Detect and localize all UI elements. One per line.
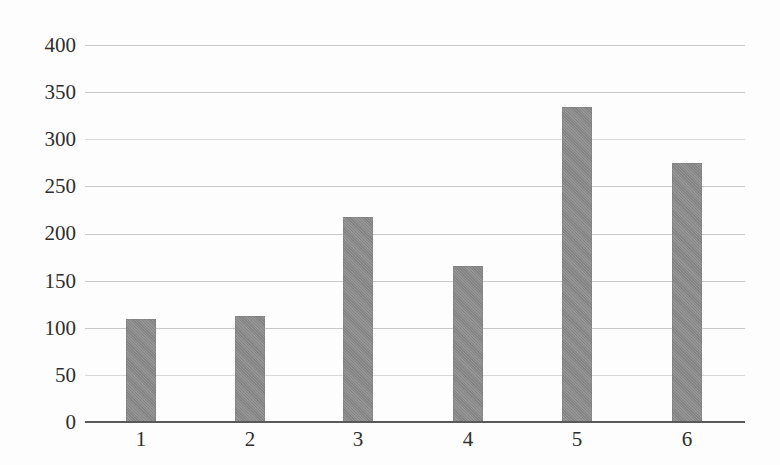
bar-2: [235, 316, 265, 422]
bar-3: [343, 217, 373, 422]
x-tick-label-1: 1: [111, 429, 171, 450]
y-tick-label-400: 400: [16, 35, 76, 56]
gridline-50: [85, 375, 745, 376]
y-tick-label-0: 0: [16, 412, 76, 433]
x-axis-line: [85, 421, 745, 423]
gridline-250: [85, 186, 745, 187]
y-tick-label-250: 250: [16, 176, 76, 197]
y-tick-label-100: 100: [16, 318, 76, 339]
y-axis-tick-labels: 400 350 300 250 200 150 100 50 0: [10, 0, 76, 465]
y-tick-label-150: 150: [16, 271, 76, 292]
gridline-150: [85, 281, 745, 282]
gridline-350: [85, 92, 745, 93]
x-tick-label-4: 4: [438, 429, 498, 450]
bar-6: [672, 163, 702, 422]
y-tick-label-50: 50: [16, 365, 76, 386]
gridline-200: [85, 234, 745, 235]
x-tick-label-6: 6: [657, 429, 717, 450]
bar-5: [562, 107, 592, 422]
bar-1: [126, 319, 156, 422]
x-tick-label-2: 2: [220, 429, 280, 450]
gridline-100: [85, 328, 745, 329]
plot-area: [85, 45, 745, 422]
x-tick-label-5: 5: [547, 429, 607, 450]
y-tick-label-350: 350: [16, 82, 76, 103]
gridline-300: [85, 139, 745, 140]
bar-4: [453, 266, 483, 422]
gridline-400: [85, 45, 745, 46]
x-tick-label-3: 3: [328, 429, 388, 450]
y-tick-label-300: 300: [16, 129, 76, 150]
y-tick-label-200: 200: [16, 223, 76, 244]
bar-chart-figure: 400 350 300 250 200 150 100 50 0 1 2 3 4…: [0, 0, 780, 465]
